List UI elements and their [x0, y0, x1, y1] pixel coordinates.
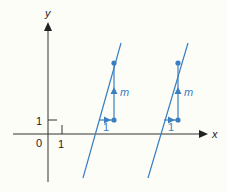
x-unit-label: 1: [58, 138, 64, 150]
run-label: 1: [103, 121, 109, 133]
origin-label: 0: [36, 137, 42, 149]
y-axis-label: y: [44, 7, 52, 19]
rise-arrow-icon: [111, 87, 118, 94]
y-axis-arrow-icon: [44, 22, 52, 31]
x-axis: [13, 130, 208, 138]
corner-point: [111, 117, 116, 122]
rise-arrow-icon: [175, 87, 182, 94]
run-label: 1: [168, 121, 174, 133]
corner-point: [175, 117, 180, 122]
line-point: [111, 60, 116, 65]
rise-label: m: [184, 86, 193, 98]
line-point: [175, 60, 180, 65]
line-2: [148, 43, 188, 178]
gradient-diagram: y x 0 1 1 m 1 m 1: [0, 0, 226, 192]
slope-triangle-2: m 1: [164, 60, 193, 133]
rise-label: m: [120, 86, 129, 98]
y-unit-label: 1: [36, 115, 42, 127]
slope-triangle-1: m 1: [99, 60, 129, 133]
x-axis-arrow-icon: [199, 130, 208, 138]
y-axis: [44, 22, 52, 182]
x-axis-label: x: [211, 128, 218, 140]
